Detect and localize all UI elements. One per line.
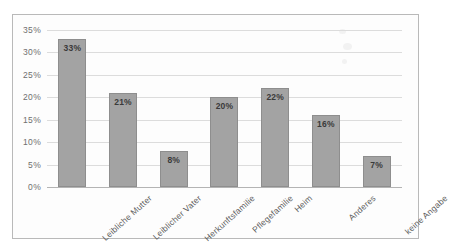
bar[interactable]: 16% xyxy=(312,115,340,187)
bar[interactable]: 21% xyxy=(109,93,137,187)
bar-slot: 20% xyxy=(199,30,250,187)
bar-slot: 21% xyxy=(98,30,149,187)
x-axis-tick-label: Leiblicher Vater xyxy=(151,193,203,242)
plot-area: 33%21%8%20%22%16%7% xyxy=(47,30,402,187)
y-axis-tick-label: 15% xyxy=(23,115,41,125)
bar[interactable]: 7% xyxy=(363,156,391,187)
bar-slot: 33% xyxy=(47,30,98,187)
y-axis-tick-label: 20% xyxy=(23,92,41,102)
y-axis-tick-label: 5% xyxy=(28,160,41,170)
bar-slot: 16% xyxy=(301,30,352,187)
bar[interactable]: 22% xyxy=(261,88,289,187)
bar-data-label: 21% xyxy=(110,97,136,107)
bar-slot: 8% xyxy=(148,30,199,187)
bar-slot: 7% xyxy=(351,30,402,187)
x-axis-tick-label: Leibliche Mutter xyxy=(101,193,155,243)
bar-series: 33%21%8%20%22%16%7% xyxy=(47,30,402,187)
y-axis: 0%5%10%15%20%25%30%35% xyxy=(13,30,45,187)
x-axis-tick-label: Anderes xyxy=(346,193,377,223)
bar-data-label: 16% xyxy=(313,119,339,129)
bar[interactable]: 33% xyxy=(58,39,86,187)
y-axis-tick-label: 35% xyxy=(23,25,41,35)
bar[interactable]: 20% xyxy=(210,97,238,187)
y-axis-tick-label: 10% xyxy=(23,137,41,147)
chart-frame: 0%5%10%15%20%25%30%35% 33%21%8%20%22%16%… xyxy=(12,14,419,239)
bar[interactable]: 8% xyxy=(160,151,188,187)
bar-data-label: 33% xyxy=(59,43,85,53)
bar-data-label: 22% xyxy=(262,92,288,102)
x-axis-tick-label: keine Angabe xyxy=(402,193,449,237)
y-axis-tick-label: 25% xyxy=(23,70,41,80)
bar-data-label: 8% xyxy=(161,155,187,165)
x-axis-tick-label: Heim xyxy=(293,193,315,214)
x-axis-tick-label: Herkunftsfamilie xyxy=(202,193,256,243)
x-axis: Leibliche MutterLeiblicher VaterHerkunft… xyxy=(47,187,402,252)
y-axis-tick-label: 30% xyxy=(23,47,41,57)
bar-slot: 22% xyxy=(250,30,301,187)
bar-data-label: 7% xyxy=(364,160,390,170)
y-axis-tick-label: 0% xyxy=(28,182,41,192)
bar-data-label: 20% xyxy=(211,101,237,111)
